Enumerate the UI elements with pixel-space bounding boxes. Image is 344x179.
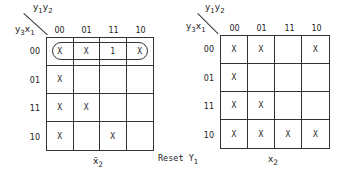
left-cell: X [47,122,74,150]
left-col-header: 10 [127,26,154,35]
left-row-header: 10 [20,133,40,142]
left-cell [127,122,154,150]
left-cell: X [47,94,74,122]
right-row-header: 00 [194,45,214,54]
right-cell: X [221,120,248,148]
left-cell [127,66,154,94]
caption-reset-y1: Reset Y1 [158,153,198,166]
left-col-header: 11 [100,26,127,35]
left-row-variable-label: y3x1 [15,24,35,37]
right-cell: X [248,92,275,120]
right-cell: X [302,120,329,148]
right-cell: X [248,36,275,64]
right-cell: X [221,92,248,120]
left-col-variable-label: y1y2 [33,2,53,15]
right-row-header: 10 [194,131,214,140]
right-cell [302,64,329,92]
right-cell: X [221,64,248,92]
left-cell: X [74,94,101,122]
left-cell [100,66,127,94]
left-bottom-label: x̄2 [93,156,103,169]
left-row-header: 11 [20,104,40,113]
left-cell [74,66,101,94]
left-row-header: 01 [20,76,40,85]
right-row-header: 11 [194,102,214,111]
right-col-header: 11 [276,24,303,33]
left-cell [100,94,127,122]
right-bottom-label: x2 [268,154,278,167]
right-col-variable-label: y1y2 [205,2,225,15]
row-00-grouping-loop [52,42,148,60]
right-cell [302,92,329,120]
right-cell [275,92,302,120]
right-col-header: 10 [303,24,330,33]
left-cell [127,94,154,122]
right-cell: X [275,120,302,148]
right-row-header: 01 [194,74,214,83]
left-col-header: 01 [73,26,100,35]
right-cell: X [302,36,329,64]
right-row-variable-label: y3x1 [186,21,206,34]
left-row-header: 00 [20,47,40,56]
right-cell [248,64,275,92]
right-col-header: 01 [248,24,275,33]
right-col-header: 00 [221,24,248,33]
left-col-header: 00 [46,26,73,35]
left-cell: X [47,66,74,94]
left-cell [74,122,101,150]
right-cell [275,36,302,64]
right-cell: X [221,36,248,64]
right-cell [275,64,302,92]
left-cell: X [100,122,127,150]
right-cell: X [248,120,275,148]
right-map-grid: X X X X X X X X X X [220,35,330,149]
